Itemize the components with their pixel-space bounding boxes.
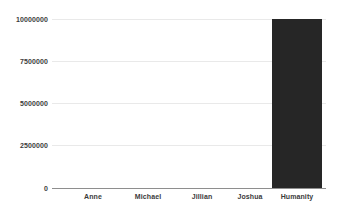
y-tick-label: 10000000 [0, 16, 48, 23]
bar-humanity [272, 19, 322, 188]
x-tick-label-humanity: Humanity [257, 193, 337, 200]
y-tick-label: 0 [0, 185, 48, 192]
y-tick-label: 7500000 [0, 58, 48, 65]
y-tick-label: 5000000 [0, 100, 48, 107]
x-axis-line [52, 188, 326, 189]
bar-chart: 10000000 7500000 5000000 2500000 0 Anne … [0, 0, 339, 211]
y-tick-label: 2500000 [0, 142, 48, 149]
plot-area [52, 19, 326, 188]
